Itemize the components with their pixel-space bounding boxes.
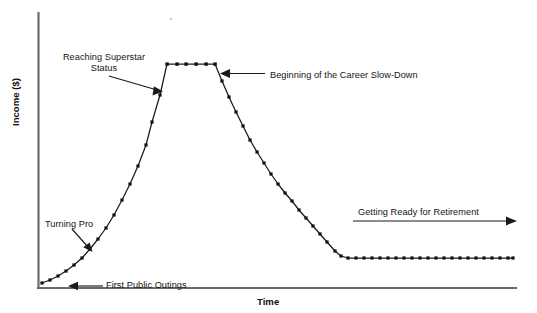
annotation-retirement: Getting Ready for Retirement [358,207,479,218]
annotation-turning-pro: Turning Pro [45,219,93,230]
x-axis-title: Time [257,296,279,307]
arrow-reaching-superstar [109,76,163,96]
annotation-career-slowdown: Beginning of the Career Slow-Down [270,70,418,81]
data-point-markers [40,62,514,284]
income-curve [42,64,512,283]
annotation-reaching-superstar: Reaching Superstar Status [56,52,152,74]
chart-canvas [0,0,537,313]
chart-figure: Income ($) Time Reaching Superstar Statu… [0,0,537,313]
annotation-first-public-outings: First Public Outings [106,280,187,291]
arrow-career-slowdown [220,69,265,78]
y-axis-title: Income ($) [10,78,21,126]
arrow-turning-pro [72,229,93,252]
